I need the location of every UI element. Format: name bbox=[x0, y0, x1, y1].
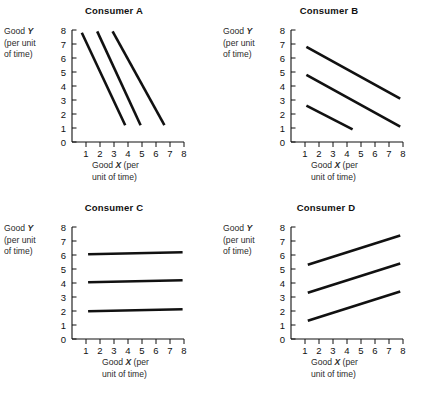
indifference-curve-2 bbox=[88, 280, 183, 282]
panel-consumer-a: Consumer A Good Y (per unit of time) Goo… bbox=[0, 0, 210, 197]
svg-text:6: 6 bbox=[153, 148, 158, 158]
svg-text:3: 3 bbox=[61, 95, 66, 106]
y-label-line1: Good Y bbox=[223, 26, 252, 36]
y-label-line2: (per unit bbox=[223, 38, 255, 48]
panel-a-x-axis-label: Good X (per unit of time) bbox=[92, 160, 139, 183]
svg-text:5: 5 bbox=[358, 148, 363, 158]
panel-d-x-axis-label: Good X (per unit of time) bbox=[311, 357, 358, 380]
svg-text:5: 5 bbox=[358, 345, 363, 355]
panel-a-y-ticklabels: 0 1 2 3 4 5 6 7 8 bbox=[61, 25, 66, 148]
svg-text:8: 8 bbox=[400, 148, 405, 158]
svg-text:6: 6 bbox=[372, 345, 377, 355]
panel-b-x-ticklabels: 1 2 3 4 5 6 7 8 bbox=[302, 148, 405, 158]
svg-text:3: 3 bbox=[330, 148, 335, 158]
svg-text:4: 4 bbox=[125, 148, 130, 158]
y-label-line1: Good Y bbox=[4, 26, 33, 36]
svg-text:4: 4 bbox=[280, 278, 285, 289]
svg-text:8: 8 bbox=[400, 345, 405, 355]
svg-text:6: 6 bbox=[280, 250, 285, 261]
svg-text:5: 5 bbox=[139, 345, 144, 355]
indifference-curve-3 bbox=[88, 309, 183, 311]
svg-text:5: 5 bbox=[280, 264, 285, 275]
svg-text:2: 2 bbox=[61, 109, 66, 120]
svg-text:5: 5 bbox=[61, 264, 66, 275]
indifference-curve-1 bbox=[88, 252, 183, 254]
y-label-line2: (per unit bbox=[4, 235, 36, 245]
panel-a-plot: 0 1 2 3 4 5 6 7 8 1 2 3 4 5 6 7 bbox=[52, 18, 192, 158]
panel-a-x-ticklabels: 1 2 3 4 5 6 7 8 bbox=[83, 148, 186, 158]
panel-c-y-axis-label: Good Y (per unit of time) bbox=[4, 223, 36, 258]
panel-d-y-ticks bbox=[291, 227, 296, 339]
panel-c-curves bbox=[88, 252, 183, 311]
panel-b-svg: 0 1 2 3 4 5 6 7 8 1 2 3 4 5 6 7 bbox=[271, 18, 411, 158]
svg-text:2: 2 bbox=[61, 306, 66, 317]
panel-d-svg: 0 1 2 3 4 5 6 7 8 1 2 3 4 5 6 7 bbox=[271, 215, 411, 355]
panel-a-svg: 0 1 2 3 4 5 6 7 8 1 2 3 4 5 6 7 bbox=[52, 18, 192, 158]
indifference-curve-2 bbox=[308, 263, 400, 292]
svg-text:4: 4 bbox=[61, 81, 66, 92]
svg-text:8: 8 bbox=[61, 222, 66, 233]
indifference-curve-3 bbox=[113, 31, 165, 125]
svg-text:7: 7 bbox=[280, 236, 285, 247]
svg-text:5: 5 bbox=[139, 148, 144, 158]
panel-consumer-d: Consumer D Good Y (per unit of time) Goo… bbox=[211, 197, 421, 394]
indifference-curve-3 bbox=[308, 291, 400, 320]
panel-a-y-axis-label: Good Y (per unit of time) bbox=[4, 26, 36, 61]
svg-text:7: 7 bbox=[386, 345, 391, 355]
indifference-curve-figure: Consumer A Good Y (per unit of time) Goo… bbox=[0, 0, 421, 394]
y-label-line2: (per unit bbox=[223, 235, 255, 245]
svg-text:4: 4 bbox=[344, 345, 349, 355]
svg-text:0: 0 bbox=[61, 137, 66, 148]
panel-c-x-axis-label: Good X (per unit of time) bbox=[102, 357, 149, 380]
svg-text:6: 6 bbox=[61, 53, 66, 64]
svg-text:1: 1 bbox=[280, 123, 285, 134]
svg-text:8: 8 bbox=[61, 25, 66, 36]
svg-text:0: 0 bbox=[280, 137, 285, 148]
indifference-curve-1 bbox=[308, 235, 400, 264]
svg-text:3: 3 bbox=[111, 345, 116, 355]
panel-d-y-axis-label: Good Y (per unit of time) bbox=[223, 223, 255, 258]
svg-text:1: 1 bbox=[61, 123, 66, 134]
svg-text:4: 4 bbox=[61, 278, 66, 289]
svg-text:6: 6 bbox=[372, 148, 377, 158]
svg-text:0: 0 bbox=[61, 334, 66, 345]
panel-b-x-ticks bbox=[305, 142, 403, 147]
svg-text:8: 8 bbox=[181, 148, 186, 158]
panel-d-title: Consumer D bbox=[211, 202, 421, 213]
svg-text:1: 1 bbox=[302, 345, 307, 355]
panel-c-title: Consumer C bbox=[0, 202, 210, 213]
svg-text:1: 1 bbox=[61, 320, 66, 331]
panel-c-svg: 0 1 2 3 4 5 6 7 8 1 2 3 4 5 6 7 bbox=[52, 215, 192, 355]
panel-c-plot: 0 1 2 3 4 5 6 7 8 1 2 3 4 5 6 7 bbox=[52, 215, 192, 355]
svg-text:1: 1 bbox=[302, 148, 307, 158]
svg-text:8: 8 bbox=[181, 345, 186, 355]
panel-d-x-ticks bbox=[305, 339, 403, 344]
svg-text:2: 2 bbox=[97, 148, 102, 158]
x-label-line1: Good X (per bbox=[311, 160, 358, 170]
svg-text:1: 1 bbox=[83, 148, 88, 158]
panel-d-x-ticklabels: 1 2 3 4 5 6 7 8 bbox=[302, 345, 405, 355]
y-label-line1: Good Y bbox=[4, 223, 33, 233]
panel-c-y-ticks bbox=[72, 227, 77, 339]
panel-c-x-ticks bbox=[86, 339, 184, 344]
y-label-line3: of time) bbox=[4, 246, 33, 256]
panel-d-y-ticklabels: 0 1 2 3 4 5 6 7 8 bbox=[280, 222, 285, 345]
x-label-line1: Good X (per bbox=[311, 357, 358, 367]
panel-consumer-b: Consumer B Good Y (per unit of time) Goo… bbox=[211, 0, 421, 197]
y-label-line3: of time) bbox=[223, 49, 252, 59]
svg-text:7: 7 bbox=[61, 236, 66, 247]
svg-text:8: 8 bbox=[280, 222, 285, 233]
svg-text:3: 3 bbox=[61, 292, 66, 303]
indifference-curve-3 bbox=[306, 106, 352, 130]
svg-text:2: 2 bbox=[280, 109, 285, 120]
panel-b-plot: 0 1 2 3 4 5 6 7 8 1 2 3 4 5 6 7 bbox=[271, 18, 411, 158]
svg-text:4: 4 bbox=[344, 148, 349, 158]
svg-text:2: 2 bbox=[280, 306, 285, 317]
svg-text:1: 1 bbox=[280, 320, 285, 331]
panel-c-y-ticklabels: 0 1 2 3 4 5 6 7 8 bbox=[61, 222, 66, 345]
svg-text:2: 2 bbox=[316, 148, 321, 158]
indifference-curve-2 bbox=[306, 75, 400, 127]
svg-text:8: 8 bbox=[280, 25, 285, 36]
panel-d-plot: 0 1 2 3 4 5 6 7 8 1 2 3 4 5 6 7 bbox=[271, 215, 411, 355]
svg-text:5: 5 bbox=[280, 67, 285, 78]
